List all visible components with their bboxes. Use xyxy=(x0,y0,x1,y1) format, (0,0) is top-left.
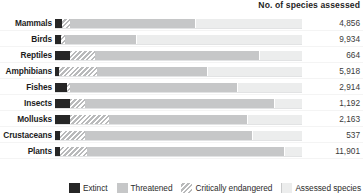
assessed-species-track xyxy=(55,66,302,77)
extinct-segment xyxy=(55,131,60,140)
threatened-segment xyxy=(55,131,253,140)
category-label: Birds xyxy=(0,34,55,44)
legend-item-threatened: Threatened xyxy=(117,183,173,193)
extinct-segment xyxy=(55,147,60,156)
bar-cell xyxy=(55,47,305,63)
critically-endangered-segment xyxy=(55,67,97,76)
table-row: Plants11,901 xyxy=(0,143,363,159)
assessed-count-value: 11,901 xyxy=(305,146,363,156)
extinct-segment xyxy=(55,19,62,28)
assessed-species-track xyxy=(55,98,302,109)
threatened-segment xyxy=(55,35,137,44)
table-row: Insects1,192 xyxy=(0,95,363,111)
bar-cell xyxy=(55,95,305,111)
assessed-count-value: 4,856 xyxy=(305,18,363,28)
category-label: Mollusks xyxy=(0,114,55,124)
light-track-swatch xyxy=(281,183,292,193)
table-row: Fishes2,914 xyxy=(0,79,363,95)
assessed-count-value: 1,192 xyxy=(305,98,363,108)
threatened-segment xyxy=(55,147,285,156)
legend-label: Assessed species xyxy=(295,183,361,193)
bar-cell xyxy=(55,143,305,159)
assessed-count-value: 537 xyxy=(305,130,363,140)
bar-cell xyxy=(55,111,305,127)
chart-legend: ExtinctThreatenedCritically endangeredAs… xyxy=(0,183,363,193)
legend-item-assessed: Assessed species xyxy=(281,183,361,193)
table-row: Crustaceans537 xyxy=(0,127,363,143)
legend-item-critical: Critically endangered xyxy=(181,183,272,193)
solid-gray-swatch xyxy=(117,183,128,193)
assessed-species-track xyxy=(55,130,302,141)
chart-rows: Mammals4,856Birds9,934Reptiles664Amphibi… xyxy=(0,14,363,159)
threatened-segment xyxy=(55,19,196,28)
legend-label: Threatened xyxy=(131,183,173,193)
bar-cell xyxy=(55,15,305,31)
extinct-segment xyxy=(55,67,59,76)
assessed-count-value: 664 xyxy=(305,50,363,60)
assessed-species-track xyxy=(55,18,302,29)
category-label: Reptiles xyxy=(0,50,55,60)
hatched-gray-swatch xyxy=(181,183,192,193)
category-label: Mammals xyxy=(0,18,55,28)
assessed-count-value: 5,918 xyxy=(305,66,363,76)
table-row: Amphibians5,918 xyxy=(0,63,363,79)
legend-item-extinct: Extinct xyxy=(69,183,108,193)
assessed-species-track xyxy=(55,82,302,93)
table-row: Reptiles664 xyxy=(0,47,363,63)
legend-label: Extinct xyxy=(83,183,108,193)
category-label: Amphibians xyxy=(0,66,55,76)
bar-cell xyxy=(55,127,305,143)
assessed-species-track xyxy=(55,34,302,45)
table-row: Birds9,934 xyxy=(0,31,363,47)
category-label: Insects xyxy=(0,98,55,108)
legend-label: Critically endangered xyxy=(195,183,272,193)
category-label: Plants xyxy=(0,146,55,156)
bar-cell xyxy=(55,79,305,95)
solid-dark-swatch xyxy=(69,183,80,193)
assessed-species-track xyxy=(55,114,302,125)
bar-cell xyxy=(55,63,305,79)
table-row: Mollusks2,163 xyxy=(0,111,363,127)
bar-cell xyxy=(55,31,305,47)
assessed-count-value: 2,914 xyxy=(305,82,363,92)
category-label: Crustaceans xyxy=(0,130,55,140)
chart-header: No. of species assessed xyxy=(0,0,363,14)
assessed-count-value: 2,163 xyxy=(305,114,363,124)
assessed-species-track xyxy=(55,50,302,61)
value-column-title: No. of species assessed xyxy=(258,0,360,10)
assessed-species-track xyxy=(55,146,302,157)
extinct-segment xyxy=(55,35,61,44)
table-row: Mammals4,856 xyxy=(0,15,363,31)
extinct-segment xyxy=(55,83,67,92)
threatened-segment xyxy=(55,99,275,108)
threatened-segment xyxy=(55,83,238,92)
species-assessment-chart: No. of species assessed Mammals4,856Bird… xyxy=(0,0,363,195)
category-label: Fishes xyxy=(0,82,55,92)
extinct-segment xyxy=(55,51,70,60)
extinct-segment xyxy=(55,115,70,124)
assessed-count-value: 9,934 xyxy=(305,34,363,44)
extinct-segment xyxy=(55,99,70,108)
